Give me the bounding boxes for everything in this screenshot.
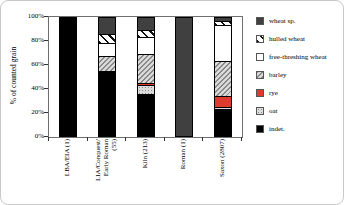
x-tick-mark — [48, 137, 49, 141]
legend: wheat sp.hulled wheatfree-threshing whea… — [256, 12, 327, 138]
y-tick-label: 100% — [14, 12, 44, 21]
legend-item: oat — [256, 102, 327, 120]
y-tick-label: 40% — [14, 84, 44, 93]
legend-item: wheat sp. — [256, 12, 327, 30]
bar — [59, 17, 77, 137]
x-tick-label: LIA/Conquest/ Early Roman (55) — [94, 139, 118, 203]
legend-swatch-rye — [256, 89, 264, 97]
legend-item: barley — [256, 66, 327, 84]
legend-item: hulled wheat — [256, 30, 327, 48]
legend-item: indet. — [256, 120, 327, 138]
legend-label: indet. — [269, 125, 285, 133]
bar-segment-wheat_sp — [176, 18, 192, 136]
bar-segment-barley — [215, 62, 231, 97]
bar-segment-hulled_wheat — [138, 31, 154, 38]
chart-figure: % of counted grain 0%20%40%60%80%100% LB… — [0, 0, 344, 205]
bar — [214, 17, 232, 137]
x-tick-mark — [241, 137, 242, 141]
x-tick-label: Kiln (213) — [141, 139, 149, 203]
legend-label: hulled wheat — [269, 35, 305, 43]
legend-label: oat — [269, 107, 278, 115]
x-tick-mark — [164, 137, 165, 141]
bar-segment-free_threshing_wheat — [138, 38, 154, 55]
legend-item: rye — [256, 84, 327, 102]
x-tick-mark — [87, 137, 88, 141]
bar-segment-rye — [215, 97, 231, 108]
bar-segment-barley — [99, 57, 115, 72]
bar-segment-oat — [138, 86, 154, 94]
bar-segment-wheat_sp — [99, 18, 115, 35]
x-tick-mark — [125, 137, 126, 141]
y-tick-label: 60% — [14, 60, 44, 69]
y-tick-mark — [44, 16, 48, 17]
y-tick-label: 80% — [14, 36, 44, 45]
bar-segment-barley — [138, 55, 154, 85]
x-tick-label: Roman (1) — [179, 139, 187, 203]
bar — [98, 17, 116, 137]
x-tick-mark — [202, 137, 203, 141]
bar — [175, 17, 193, 137]
plot-area — [48, 16, 243, 138]
legend-label: barley — [269, 71, 287, 79]
bar-segment-indet — [99, 72, 115, 136]
bar-segment-free_threshing_wheat — [215, 26, 231, 61]
bar-segment-indet — [60, 18, 76, 136]
bar-segment-wheat_sp — [138, 18, 154, 31]
legend-swatch-hulled_wheat — [256, 35, 264, 43]
y-tick-mark — [44, 112, 48, 113]
y-tick-mark — [44, 88, 48, 89]
bar-segment-indet — [138, 95, 154, 136]
legend-label: free-threshing wheat — [269, 53, 327, 61]
y-tick-label: 20% — [14, 108, 44, 117]
bar-segment-free_threshing_wheat — [99, 44, 115, 57]
y-tick-mark — [44, 40, 48, 41]
legend-label: wheat sp. — [269, 17, 295, 25]
x-tick-label: Saxon (2807) — [218, 139, 226, 203]
bar-segment-hulled_wheat — [99, 35, 115, 44]
y-tick-label: 0% — [14, 132, 44, 141]
legend-item: free-threshing wheat — [256, 48, 327, 66]
bar — [137, 17, 155, 137]
x-tick-label: LBA/EIA (1) — [63, 139, 71, 203]
y-tick-mark — [44, 64, 48, 65]
legend-swatch-indet — [256, 125, 264, 133]
legend-swatch-free_threshing_wheat — [256, 53, 264, 61]
legend-swatch-barley — [256, 71, 264, 79]
legend-label: rye — [269, 89, 278, 97]
legend-swatch-oat — [256, 107, 264, 115]
legend-swatch-wheat_sp — [256, 17, 264, 25]
y-axis-title: % of counted grain — [8, 16, 19, 136]
bar-segment-indet — [215, 110, 231, 136]
